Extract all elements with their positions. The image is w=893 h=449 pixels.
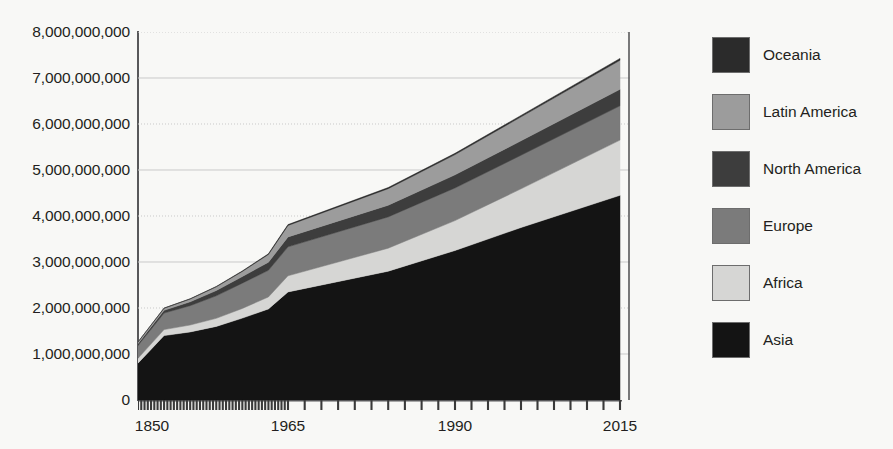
x-tick-label: 1850 [135, 417, 169, 435]
legend-item-latin-america: Latin America [712, 83, 887, 140]
x-tick-label: 1990 [438, 417, 472, 435]
legend-label: Europe [763, 217, 813, 235]
y-tick-label: 1,000,000,000 [0, 346, 130, 362]
y-tick-label: 0 [0, 392, 130, 408]
stacked-area-plot [138, 32, 630, 400]
legend-item-asia: Asia [712, 311, 887, 368]
legend-swatch-icon [712, 265, 750, 301]
x-axis: 1850 1965 1990 2015 [0, 417, 893, 441]
legend-swatch-icon [712, 322, 750, 358]
y-tick-label: 4,000,000,000 [0, 208, 130, 224]
legend-item-north-america: North America [712, 140, 887, 197]
legend-swatch-icon [712, 151, 750, 187]
x-axis-ticks [138, 400, 634, 413]
y-tick-label: 7,000,000,000 [0, 70, 130, 86]
legend-item-europe: Europe [712, 197, 887, 254]
area-bands [138, 58, 620, 400]
legend-label: Oceania [763, 46, 821, 64]
legend-label: Africa [763, 274, 803, 292]
legend-item-oceania: Oceania [712, 26, 887, 83]
legend-swatch-icon [712, 208, 750, 244]
x-tick-label: 2015 [603, 417, 637, 435]
plot-area [138, 32, 630, 400]
legend-label: Asia [763, 331, 793, 349]
legend-swatch-icon [712, 37, 750, 73]
legend-label: Latin America [763, 103, 857, 121]
chart-figure: 8,000,000,000 7,000,000,000 6,000,000,00… [0, 0, 893, 449]
y-tick-label: 5,000,000,000 [0, 162, 130, 178]
y-tick-label: 2,000,000,000 [0, 300, 130, 316]
y-tick-label: 6,000,000,000 [0, 116, 130, 132]
y-tick-label: 3,000,000,000 [0, 254, 130, 270]
chart-legend: Oceania Latin America North America Euro… [712, 26, 887, 368]
legend-item-africa: Africa [712, 254, 887, 311]
legend-label: North America [763, 160, 861, 178]
y-tick-label: 8,000,000,000 [0, 24, 130, 40]
legend-swatch-icon [712, 94, 750, 130]
y-axis: 8,000,000,000 7,000,000,000 6,000,000,00… [0, 0, 130, 449]
x-tick-label: 1965 [271, 417, 305, 435]
